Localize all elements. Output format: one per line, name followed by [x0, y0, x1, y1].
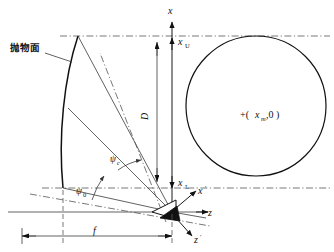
point-annotation-group: +( x m ,0 ) [240, 109, 279, 122]
upper-edge-ray [78, 36, 172, 212]
angle-psi-c-label-group: ψ c [110, 154, 120, 166]
z-prime-label-group: z ′ [193, 233, 202, 245]
focal-length-label: f [93, 225, 97, 236]
z-prime-axis-arrow [176, 218, 192, 236]
x-upper-label: x [177, 36, 183, 47]
surface-label-leader [45, 53, 72, 62]
point-x-label: x [254, 109, 260, 120]
x-prime-mark: ′ [205, 184, 207, 191]
x-upper-label-group: x U [177, 36, 190, 49]
antenna-geometry-svg: 抛物面 x z x U x L D f ψ c ψ 0 x ′ [0, 0, 334, 252]
x-axis-label: x [167, 5, 173, 16]
lower-dashdot-axis [30, 194, 210, 226]
surface-label: 抛物面 [10, 42, 40, 53]
x-upper-subscript: U [185, 42, 190, 49]
point-marker-prefix: +( [240, 109, 250, 121]
circle-region [186, 36, 326, 176]
x-prime-axis-arrow [176, 191, 196, 208]
x-prime-label-group: x ′ [197, 184, 207, 196]
x-lower-label: x [177, 177, 183, 188]
z-axis-label: z [207, 207, 212, 218]
aperture-label: D [139, 112, 150, 121]
dish-symmetry-axis [100, 53, 166, 222]
x-lower-subscript: L [185, 183, 189, 190]
parabola-curve [61, 36, 78, 188]
figure-canvas: 抛物面 x z x U x L D f ψ c ψ 0 x ′ [0, 0, 334, 252]
angle-psi-0-subscript: 0 [83, 191, 86, 198]
angle-psi-c-subscript: c [117, 159, 120, 166]
x-prime-label: x [197, 185, 203, 196]
z-prime-mark: ′ [200, 233, 202, 240]
z-prime-label: z [193, 234, 198, 245]
angle-psi-0-label: ψ [76, 186, 83, 196]
point-marker-suffix: ,0 ) [266, 109, 279, 121]
